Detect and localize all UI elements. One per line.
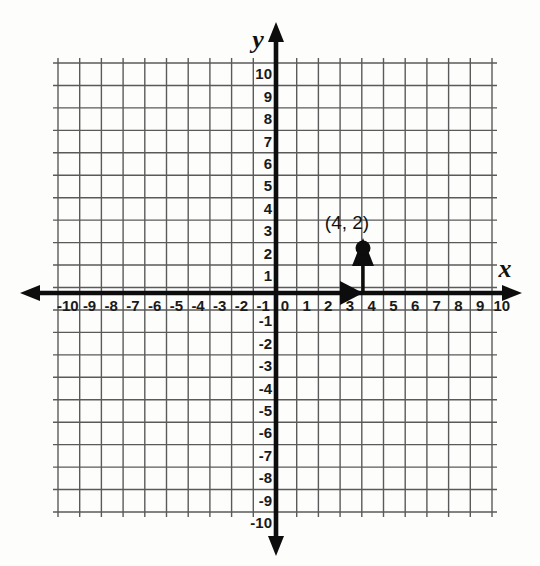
x-axis-tick-label: -9 <box>83 297 96 314</box>
plot-canvas: -10-9-8-7-6-5-4-3-2-1012345678910 109876… <box>0 0 540 566</box>
y-axis-tick-label: -5 <box>259 402 272 419</box>
x-axis-tick-label: 5 <box>389 297 397 314</box>
x-axis-left-arrowhead <box>20 285 40 301</box>
y-axis-tick-label: -4 <box>259 380 273 397</box>
y-axis-tick-label: -7 <box>259 447 272 464</box>
plotted-point-marker <box>356 241 371 256</box>
x-axis-tick-label: -10 <box>57 297 79 314</box>
y-axis-tick-label: 7 <box>264 133 272 150</box>
x-axis-tick-label: -8 <box>105 297 118 314</box>
y-axis-tick-label: 9 <box>264 88 272 105</box>
y-axis-top-arrowhead <box>268 22 284 42</box>
x-axis-tick-label: 6 <box>411 297 419 314</box>
y-axis-tick-label: -10 <box>250 514 272 531</box>
y-axis-tick-label: 10 <box>255 65 272 82</box>
x-axis-tick-label: -4 <box>191 297 205 314</box>
y-axis-tick-label: 5 <box>264 177 272 194</box>
x-axis-tick-label: 9 <box>476 297 484 314</box>
x-axis-tick-label: -6 <box>148 297 161 314</box>
x-axis-name-label: x <box>498 254 512 283</box>
y-axis-name-label: y <box>249 25 264 54</box>
y-axis-tick-label: -3 <box>259 357 272 374</box>
x-axis-tick-label: 2 <box>324 297 332 314</box>
y-axis-tick-label: -2 <box>259 335 272 352</box>
x-axis-tick-label: 0 <box>281 297 289 314</box>
x-axis-tick-label: 4 <box>367 297 376 314</box>
x-axis-tick-label: 1 <box>302 297 310 314</box>
x-axis-tick-label: 7 <box>433 297 441 314</box>
x-axis-tick-label: 8 <box>454 297 462 314</box>
y-axis-tick-label: 6 <box>264 155 272 172</box>
x-axis-tick-label: -2 <box>235 297 248 314</box>
y-axis-tick-label: 8 <box>264 110 272 127</box>
coordinate-plane-figure: -10-9-8-7-6-5-4-3-2-1012345678910 109876… <box>0 0 540 566</box>
plotted-point-label: (4, 2) <box>325 212 369 233</box>
y-axis-tick-label: 4 <box>264 200 273 217</box>
y-axis-tick-label: 3 <box>264 222 272 239</box>
y-axis-tick-label: 1 <box>264 267 272 284</box>
x-axis-tick-label: 10 <box>494 297 511 314</box>
y-axis-tick-label: -1 <box>259 312 272 329</box>
x-axis-tick-label: -3 <box>213 297 226 314</box>
y-axis-tick-label: -6 <box>259 424 272 441</box>
y-axis-tick-label: 2 <box>264 245 272 262</box>
x-axis-tick-label: -5 <box>170 297 183 314</box>
y-axis-tick-label: -9 <box>259 492 272 509</box>
y-axis-tick-label: -8 <box>259 469 272 486</box>
x-axis-tick-label: -7 <box>126 297 139 314</box>
x-axis-tick-labels: -10-9-8-7-6-5-4-3-2-1012345678910 <box>57 297 510 314</box>
y-axis-bottom-arrowhead <box>268 536 284 556</box>
